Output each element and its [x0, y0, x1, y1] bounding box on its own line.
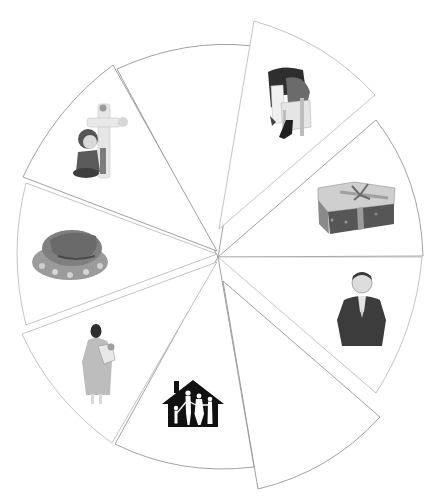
picture-wheel: [0, 0, 437, 504]
